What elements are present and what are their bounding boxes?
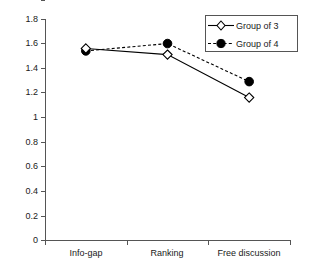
data-point: [245, 93, 254, 102]
line-chart: 1.8 1.6 1.4 1.2 1 0.8 0.6 0.4 0.2 0 Info…: [0, 0, 309, 271]
data-point: [163, 50, 172, 59]
legend-label-group-of-3: Group of 3: [236, 21, 279, 31]
legend: Group of 3 Group of 4: [205, 15, 298, 52]
open-diamond-icon: [206, 17, 236, 34]
filled-circle-icon: [206, 35, 236, 52]
series-markers-group-of-3: [81, 44, 254, 102]
data-point: [163, 39, 172, 48]
series-group-of-3: [81, 44, 254, 102]
legend-item-group-of-3: Group of 3: [206, 17, 297, 34]
legend-item-group-of-4: Group of 4: [206, 35, 297, 52]
data-point: [245, 77, 254, 86]
legend-label-group-of-4: Group of 4: [236, 39, 279, 49]
